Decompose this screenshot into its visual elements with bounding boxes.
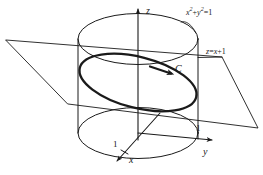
x-axis-tick-label: 1 bbox=[113, 140, 118, 149]
cylinder-equation-label: x2+y2=1 bbox=[186, 9, 212, 17]
cylinder-label-leader bbox=[181, 22, 196, 33]
figure-canvas bbox=[0, 0, 263, 175]
plane-eq-const: 1 bbox=[222, 47, 226, 56]
math-figure: z x y 1 1 C x2+y2=1 z=x+1 bbox=[0, 0, 263, 175]
curve-c-label: C bbox=[175, 64, 182, 74]
y-axis-tick-label: 1 bbox=[196, 124, 201, 133]
x-axis-label: x bbox=[129, 155, 133, 165]
y-axis bbox=[138, 133, 212, 140]
cylinder-eq-value: 1 bbox=[208, 8, 212, 17]
z-axis-label: z bbox=[146, 6, 150, 16]
plane-label-leader bbox=[198, 57, 222, 58]
y-axis-label: y bbox=[203, 147, 207, 157]
plane-equation-label: z=x+1 bbox=[206, 48, 226, 56]
